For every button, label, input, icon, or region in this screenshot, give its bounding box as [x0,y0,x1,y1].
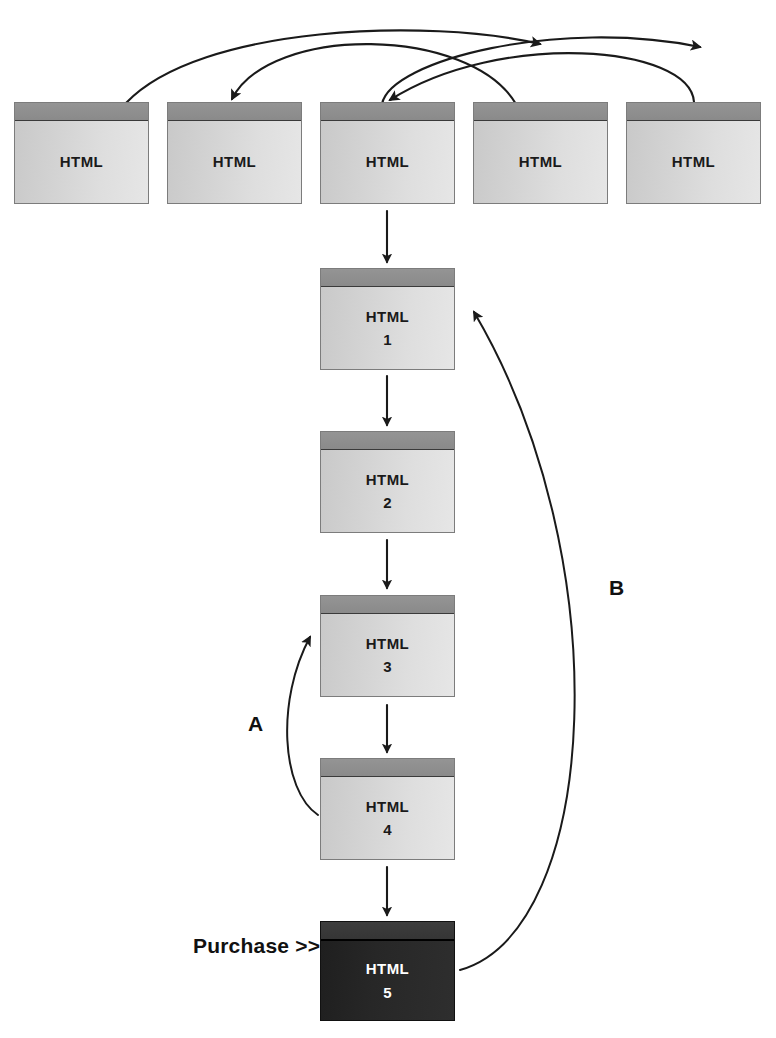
page-label: HTML [366,305,409,328]
page-label: HTML [519,150,562,173]
page-label: HTML [213,150,256,173]
page-titlebar [321,103,454,121]
page-label: HTML [366,957,409,980]
page-label: HTML [366,468,409,491]
page-label: HTML [60,150,103,173]
page-label: HTML [672,150,715,173]
page-body: HTML [321,121,454,203]
cross-link-arrow-1 [126,30,540,103]
page-titlebar [15,103,148,121]
funnel-page-1[interactable]: HTML 1 [320,268,455,370]
page-body: HTML 4 [321,777,454,859]
funnel-page-4[interactable]: HTML 4 [320,758,455,860]
loop-b-label: B [609,576,624,600]
entry-page-4[interactable]: HTML [473,102,608,204]
page-titlebar [321,596,454,614]
entry-page-1[interactable]: HTML [14,102,149,204]
page-titlebar [474,103,607,121]
page-label: HTML [366,795,409,818]
page-body: HTML [474,121,607,203]
cross-link-arrow-4 [390,53,694,102]
cross-link-arrow-3 [232,44,516,104]
funnel-page-2[interactable]: HTML 2 [320,431,455,533]
page-number: 1 [383,328,391,351]
page-titlebar [321,432,454,450]
page-flow-diagram: HTML HTML HTML HTML HTML HTML 1 [0,0,776,1038]
entry-page-2[interactable]: HTML [167,102,302,204]
loop-a-arrow [287,637,318,815]
page-body: HTML 5 [321,941,454,1020]
page-number: 4 [383,818,391,841]
page-body: HTML 1 [321,287,454,369]
page-titlebar [627,103,760,121]
page-titlebar [321,759,454,777]
entry-page-3[interactable]: HTML [320,102,455,204]
funnel-page-5-purchase[interactable]: HTML 5 [320,921,455,1021]
page-number: 3 [383,655,391,678]
purchase-label: Purchase >> [193,934,320,958]
page-body: HTML 3 [321,614,454,696]
funnel-page-3[interactable]: HTML 3 [320,595,455,697]
cross-link-arrow-2 [382,37,700,104]
page-number: 2 [383,491,391,514]
entry-page-5[interactable]: HTML [626,102,761,204]
page-titlebar [321,269,454,287]
loop-a-label: A [248,712,263,736]
page-label: HTML [366,632,409,655]
page-body: HTML [15,121,148,203]
page-body: HTML [168,121,301,203]
page-titlebar [168,103,301,121]
page-number: 5 [383,981,391,1004]
page-body: HTML 2 [321,450,454,532]
loop-b-arrow [460,312,575,970]
page-body: HTML [627,121,760,203]
page-label: HTML [366,150,409,173]
page-titlebar [321,922,454,941]
